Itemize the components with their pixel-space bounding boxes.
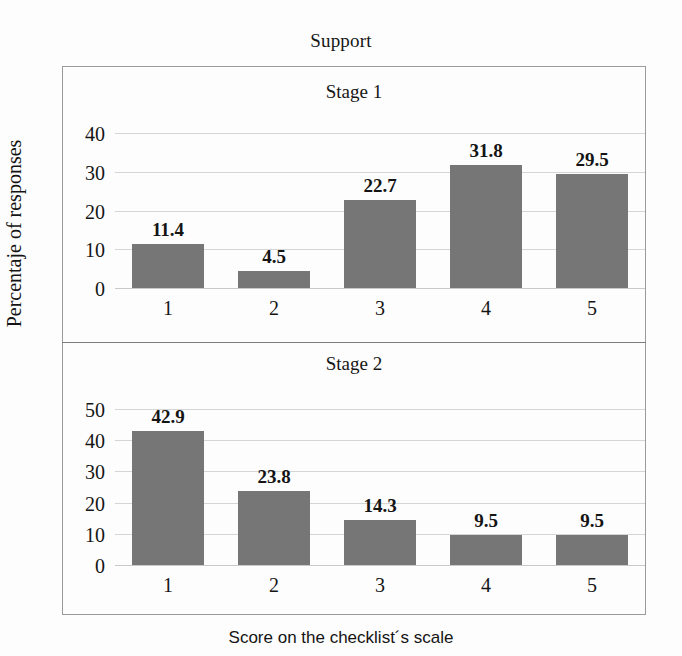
y-tick-label-30: 30 [85, 461, 105, 484]
bar [344, 520, 416, 565]
bar-value-label: 42.9 [115, 406, 221, 428]
y-tick-label-40: 40 [85, 123, 105, 146]
bars-stage-1: 11.414.5222.7331.8429.55 [115, 133, 645, 288]
bar [132, 431, 204, 565]
bar [450, 535, 522, 565]
panel-title-stage-2: Stage 2 [62, 353, 646, 375]
y-tick-label-10: 10 [85, 523, 105, 546]
bar-value-label: 14.3 [327, 495, 433, 517]
x-tick-label-4: 4 [433, 297, 539, 320]
x-tick-label-3: 3 [327, 297, 433, 320]
gridline-0: 0 [115, 288, 645, 289]
x-tick-label-1: 1 [115, 574, 221, 597]
bar-group: 42.91 [115, 409, 221, 565]
bar-value-label: 9.5 [433, 510, 539, 532]
y-tick-label-0: 0 [95, 278, 105, 301]
y-axis-label: Percentaje of responses [3, 94, 26, 374]
panel-stage-1: Stage 1 010203040 11.414.5222.7331.8429.… [62, 66, 646, 342]
bar-group: 14.33 [327, 409, 433, 565]
bar-group: 9.55 [539, 409, 645, 565]
y-tick-label-50: 50 [85, 399, 105, 422]
panel-stage-2: Stage 2 01020304050 42.9123.8214.339.549… [62, 343, 646, 615]
bar [450, 165, 522, 288]
x-tick-label-2: 2 [221, 574, 327, 597]
x-axis-label: Score on the checklist´s scale [0, 628, 682, 648]
figure-canvas: Support Stage 1 010203040 11.414.5222.73… [0, 0, 682, 656]
bar-group: 9.54 [433, 409, 539, 565]
bar-group: 23.82 [221, 409, 327, 565]
bar-value-label: 22.7 [327, 175, 433, 197]
gridline-0: 0 [115, 565, 645, 566]
x-tick-label-1: 1 [115, 297, 221, 320]
bar-group: 11.41 [115, 133, 221, 288]
bar [344, 200, 416, 288]
x-tick-label-5: 5 [539, 574, 645, 597]
bar-group: 29.55 [539, 133, 645, 288]
x-tick-label-3: 3 [327, 574, 433, 597]
plot-area-stage-1: 010203040 11.414.5222.7331.8429.55 [115, 133, 645, 288]
panel-title-stage-1: Stage 1 [62, 81, 646, 103]
bar-group: 4.52 [221, 133, 327, 288]
bar [556, 535, 628, 565]
bar [238, 271, 310, 288]
bar-value-label: 29.5 [539, 149, 645, 171]
x-tick-label-2: 2 [221, 297, 327, 320]
y-tick-label-0: 0 [95, 555, 105, 578]
bar-value-label: 11.4 [115, 219, 221, 241]
bar [132, 244, 204, 288]
bars-stage-2: 42.9123.8214.339.549.55 [115, 409, 645, 565]
y-tick-label-40: 40 [85, 430, 105, 453]
bar-value-label: 4.5 [221, 246, 327, 268]
y-tick-label-30: 30 [85, 161, 105, 184]
bar-group: 31.84 [433, 133, 539, 288]
y-tick-label-10: 10 [85, 239, 105, 262]
bar-value-label: 9.5 [539, 510, 645, 532]
bar-group: 22.73 [327, 133, 433, 288]
plot-area-stage-2: 01020304050 42.9123.8214.339.549.55 [115, 409, 645, 565]
bar [556, 174, 628, 288]
bar [238, 491, 310, 565]
figure-title: Support [0, 30, 682, 52]
x-tick-label-4: 4 [433, 574, 539, 597]
y-tick-label-20: 20 [85, 200, 105, 223]
bar-value-label: 31.8 [433, 140, 539, 162]
y-tick-label-20: 20 [85, 492, 105, 515]
bar-value-label: 23.8 [221, 466, 327, 488]
x-tick-label-5: 5 [539, 297, 645, 320]
